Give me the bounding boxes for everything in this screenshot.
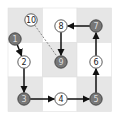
node-2: 2 [18,56,30,68]
node-label: 10 [26,16,36,25]
node-4: 4 [55,93,67,105]
node-9: 9 [55,56,67,68]
node-5: 5 [90,93,102,105]
node-label: 5 [93,95,98,104]
node-3: 3 [18,93,30,105]
node-label: 9 [58,58,63,67]
node-8: 8 [55,20,67,32]
grid-path-diagram: 12345678910 [0,0,117,121]
node-7: 7 [90,20,102,32]
node-10: 10 [25,14,37,26]
node-label: 8 [58,22,63,31]
node-1: 1 [9,33,21,45]
node-label: 2 [21,58,26,67]
node-label: 3 [21,95,26,104]
node-label: 6 [93,58,98,67]
node-6: 6 [90,56,102,68]
node-label: 7 [93,22,98,31]
node-label: 4 [58,95,63,104]
node-label: 1 [12,35,17,44]
